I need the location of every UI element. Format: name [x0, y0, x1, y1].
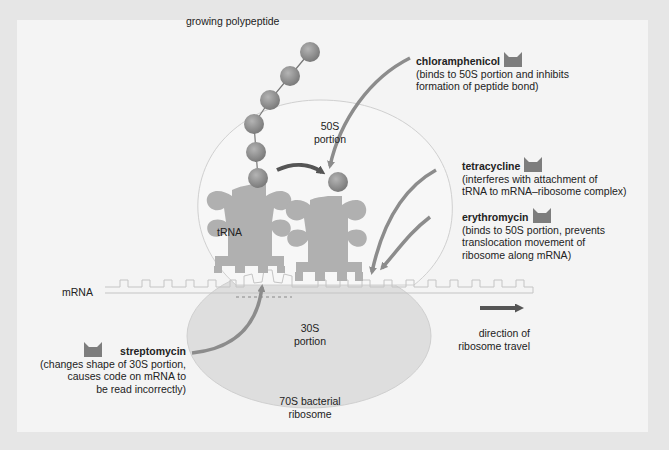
- ribosome-label: 70S bacterial ribosome: [260, 395, 360, 420]
- drug-cup-icon: [504, 52, 522, 67]
- drug-cup-icon: [84, 342, 102, 357]
- drug-cup-icon: [524, 157, 542, 172]
- direction-label: direction of ribosome travel: [430, 327, 530, 352]
- growing-polypeptide-label: growing polypeptide: [186, 15, 279, 28]
- portion-30s-label: 30S portion: [280, 322, 340, 347]
- drug-tetracycline: tetracycline (interferes with attachment…: [462, 157, 627, 198]
- trna-label: tRNA: [217, 226, 242, 239]
- drug-name: erythromycin: [462, 211, 529, 223]
- drug-name: streptomycin: [120, 345, 186, 357]
- drug-cup-icon: [533, 208, 551, 223]
- drug-name: tetracycline: [462, 160, 520, 172]
- trna-right: [286, 196, 367, 280]
- drug-erythromycin: erythromycin (binds to 50S portion, prev…: [462, 208, 605, 261]
- portion-50s-label: 50S portion: [300, 120, 360, 145]
- mrna-label: mRNA: [62, 286, 93, 299]
- drug-streptomycin: streptomycin (changes shape of 30S porti…: [30, 342, 186, 395]
- drug-name: chloramphenicol: [416, 55, 500, 67]
- drug-chloramphenicol: chloramphenicol (binds to 50S portion an…: [416, 52, 569, 93]
